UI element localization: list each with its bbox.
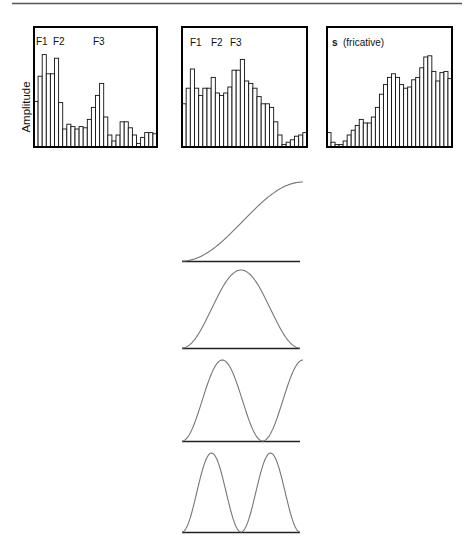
spectrum-bar xyxy=(128,128,132,147)
spectrum-bar xyxy=(55,58,59,147)
chart3-label-fricative: (fricative) xyxy=(343,37,384,49)
spectrum-bar xyxy=(199,95,203,147)
spectrum-bar xyxy=(75,129,79,147)
spectrum-bar xyxy=(290,140,294,147)
spectrum-bar xyxy=(408,87,412,147)
spectrum-bar xyxy=(420,68,424,147)
spectrum-bar xyxy=(195,88,199,147)
cosine-curves xyxy=(182,182,303,533)
spectrum-bar xyxy=(299,135,303,147)
chart2-label-f1: F1 xyxy=(190,37,202,49)
chart1-label-f3: F3 xyxy=(93,36,105,48)
spectrum-bar xyxy=(46,74,50,147)
spectrum-bar xyxy=(436,81,440,147)
spectrum-bar xyxy=(295,136,299,147)
spectrum-bar xyxy=(428,56,432,147)
curve-path xyxy=(182,182,303,261)
curve-path xyxy=(182,453,300,532)
cosine-curve-3 xyxy=(182,360,303,442)
spectrum-bar xyxy=(347,135,351,147)
spectrum-bar xyxy=(274,122,278,147)
spectrum-bar xyxy=(108,135,112,147)
spectrum-bar xyxy=(132,135,136,147)
chart2-label-f3: F3 xyxy=(230,37,242,49)
curve-path xyxy=(182,270,300,348)
spectrum-bar xyxy=(355,125,359,147)
spectrum-bar xyxy=(387,77,391,147)
spectrum-bar xyxy=(404,88,408,147)
spectrum-bar xyxy=(220,95,224,147)
spectrum-bar xyxy=(116,135,120,147)
spectrum-bar xyxy=(412,80,416,147)
spectrum-bar xyxy=(211,77,215,147)
spectrum-bar xyxy=(371,117,375,147)
cosine-curve-4 xyxy=(182,453,300,533)
spectrum-bar xyxy=(249,83,253,147)
spectrum-bar xyxy=(383,85,387,147)
spectrum-bar xyxy=(359,119,363,147)
spectrum-bar xyxy=(363,123,367,147)
spectrum-bar xyxy=(149,133,153,147)
spectrum-bar xyxy=(245,81,249,147)
spectrum-bar xyxy=(145,133,149,147)
spectrum-bar xyxy=(351,130,355,147)
spectrum-bar xyxy=(367,123,371,147)
spectrum-bar xyxy=(42,55,46,147)
spectrum-bar xyxy=(50,74,54,147)
spectrum-bar xyxy=(424,57,428,147)
spectrum-bar xyxy=(87,119,91,147)
spectrum-bar xyxy=(215,93,219,147)
y-axis-label: Amplitude xyxy=(20,81,32,132)
spectrum-bar xyxy=(375,107,379,147)
figure-canvas xyxy=(0,0,474,547)
spectrum-bar xyxy=(400,85,404,147)
spectrum-bar xyxy=(207,88,211,147)
spectrum-bar xyxy=(83,128,87,147)
spectrum-bar xyxy=(261,104,265,147)
spectrum-bar xyxy=(392,74,396,147)
spectrum-bar xyxy=(270,107,274,147)
spectrum-bar xyxy=(124,122,128,147)
chart1-label-f2: F2 xyxy=(53,36,65,48)
spectrum-bar xyxy=(71,127,75,147)
spectrum-bar xyxy=(240,59,244,147)
spectrum-bar xyxy=(379,94,383,147)
cosine-curve-2 xyxy=(182,270,300,349)
spectrum-bar xyxy=(79,127,83,147)
spectrum-bar xyxy=(396,77,400,147)
spectrum-bar xyxy=(440,73,444,147)
spectrum-bar xyxy=(59,103,63,147)
spectrum-bar xyxy=(104,117,108,147)
spectrum-bar xyxy=(236,70,240,147)
chart3-label-s: s xyxy=(332,37,338,49)
cosine-curve-1 xyxy=(182,182,303,262)
spectrum-bar xyxy=(38,76,42,147)
spectrum-bar xyxy=(190,69,194,147)
spectrum-bar xyxy=(100,83,104,147)
spectrum-bar xyxy=(416,77,420,147)
spectrum-bar xyxy=(96,95,100,147)
spectrum-bar xyxy=(253,88,257,147)
spectrum-bar xyxy=(444,71,448,147)
chart1-label-f1: F1 xyxy=(36,36,48,48)
spectrum-bar xyxy=(224,93,228,147)
spectrum-bar xyxy=(120,122,124,147)
spectrum-bar xyxy=(265,104,269,147)
spectrum-bar xyxy=(91,107,95,147)
spectrum-bar xyxy=(141,137,145,147)
spectrum-bar xyxy=(67,124,71,147)
chart2-label-f2: F2 xyxy=(211,37,223,49)
spectrum-bar xyxy=(186,88,190,147)
spectrum-bar xyxy=(278,135,282,147)
spectrum-bar xyxy=(203,88,207,147)
spectrum-bar xyxy=(63,129,67,147)
spectrum-bar xyxy=(432,71,436,147)
spectrum-bar xyxy=(232,70,236,147)
curve-path xyxy=(182,360,303,441)
spectrum-bar xyxy=(257,97,261,147)
spectrum-bar xyxy=(228,87,232,147)
